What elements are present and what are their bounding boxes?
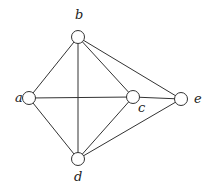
node-label-c: c <box>138 100 146 115</box>
labels-group: abcde <box>15 7 202 184</box>
node-label-b: b <box>75 7 83 22</box>
node-d <box>72 153 85 166</box>
node-e <box>175 93 188 106</box>
edge-a-d <box>29 98 78 159</box>
edge-a-c <box>29 97 133 98</box>
node-label-e: e <box>194 91 202 106</box>
node-label-d: d <box>74 169 82 184</box>
edge-c-d <box>78 97 133 159</box>
graph-diagram: abcde <box>0 0 212 187</box>
edge-d-e <box>78 99 181 159</box>
node-label-a: a <box>15 90 23 105</box>
node-a <box>23 92 36 105</box>
edge-b-c <box>78 37 133 97</box>
node-b <box>72 31 85 44</box>
edge-c-e <box>133 97 181 99</box>
edge-a-b <box>29 37 78 98</box>
edge-b-e <box>78 37 181 99</box>
edges-group <box>29 37 181 159</box>
